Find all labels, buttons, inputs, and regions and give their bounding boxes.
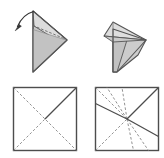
panel-top-left — [15, 11, 67, 72]
panel-top-right — [104, 22, 146, 72]
panel-bottom-left — [14, 88, 77, 151]
origami-figure-svg — [0, 0, 164, 158]
panel-bottom-right — [96, 88, 159, 151]
origami-figure: Origami folding step: crease pattern and… — [0, 0, 164, 158]
fold-direction-arrowhead — [15, 24, 21, 30]
fold-direction-arrow — [18, 12, 34, 27]
